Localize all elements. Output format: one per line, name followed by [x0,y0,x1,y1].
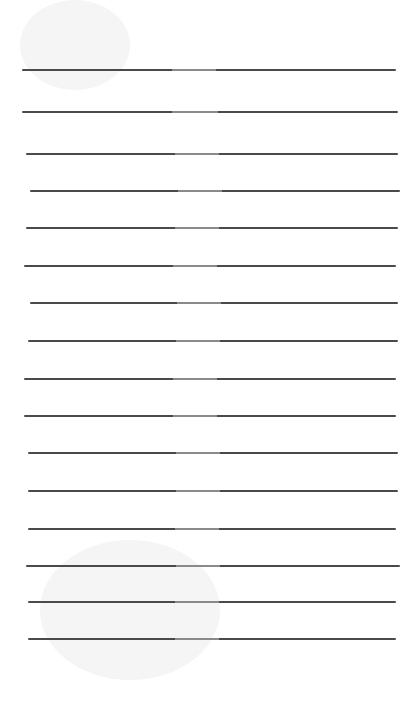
ruled-line [28,601,396,603]
ruled-line [24,378,396,380]
ruled-line [30,190,400,192]
ruled-line [22,69,396,71]
ruled-line [26,565,400,567]
ruled-line [28,528,396,530]
ruled-line [24,265,396,267]
ruled-line [26,227,398,229]
ruled-line [28,638,396,640]
ruled-line [26,153,398,155]
ruled-line [28,340,398,342]
floral-watermark [20,0,130,90]
floral-watermark [40,540,220,680]
ruled-line [28,452,398,454]
ruled-line [22,111,398,113]
ruled-line [24,415,396,417]
ruled-line [30,302,398,304]
ruled-line [28,490,398,492]
